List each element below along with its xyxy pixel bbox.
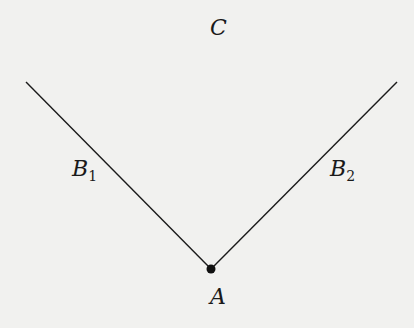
label-c: C bbox=[210, 17, 227, 39]
label-b2: B2 bbox=[330, 158, 355, 180]
label-b2-subscript: 2 bbox=[346, 168, 355, 184]
label-b2-main: B bbox=[330, 156, 346, 181]
label-b1: B1 bbox=[72, 158, 97, 180]
label-b1-subscript: 1 bbox=[88, 168, 97, 184]
line-b2 bbox=[211, 82, 397, 269]
label-b1-main: B bbox=[72, 156, 88, 181]
vertex-point-a bbox=[207, 265, 216, 274]
line-b1 bbox=[26, 82, 211, 269]
label-a: A bbox=[210, 286, 226, 308]
